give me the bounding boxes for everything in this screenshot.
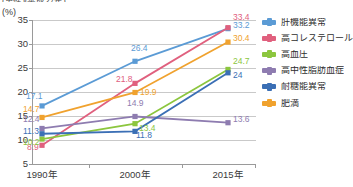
line-marker-icon <box>262 36 276 41</box>
data-point-label: 19.9 <box>140 88 157 97</box>
series-marker <box>225 39 230 44</box>
series-marker <box>39 131 44 136</box>
series-marker <box>39 143 44 148</box>
legend-item[interactable]: 高中性脂肪血症 <box>262 63 353 79</box>
y-axis-tick-label: 25 <box>17 63 28 73</box>
data-point-label: 33.4 <box>233 13 250 22</box>
data-point-label: 17.1 <box>26 92 43 101</box>
data-point-label: 14.9 <box>127 99 144 108</box>
legend-item[interactable]: 高血圧 <box>262 46 353 62</box>
x-axis-tick-label: 1990年 <box>26 170 57 180</box>
y-axis-tick-label: 30 <box>17 39 28 49</box>
data-point-label: 14.7 <box>23 105 40 114</box>
x-axis-tick-label: 2000年 <box>119 170 150 180</box>
data-point-label: 12.4 <box>23 115 40 124</box>
series-marker <box>132 81 137 86</box>
data-point-label: 13.6 <box>233 115 250 124</box>
data-point-label: 11.3 <box>23 127 39 136</box>
data-point-label: 26.4 <box>131 44 148 53</box>
series-marker <box>39 126 44 131</box>
line-chart: (男性)(平成27年) (%) 5101520253035 1990年2000年… <box>0 0 353 187</box>
series-marker <box>132 114 137 119</box>
line-marker-icon <box>262 84 276 89</box>
data-point-label: 11.8 <box>136 131 152 140</box>
legend: 肝機能異常高コレステロール高血圧高中性脂肪血症耐糖能異常肥満 <box>262 14 353 111</box>
data-point-label: 33.2 <box>233 21 250 30</box>
legend-item-label: 高コレステロール <box>281 34 353 43</box>
data-point-label: 21.8 <box>116 75 133 84</box>
data-point-label: 24 <box>233 71 242 80</box>
line-marker-icon <box>262 101 276 106</box>
legend-item-label: 耐糖能異常 <box>281 82 326 91</box>
legend-item[interactable]: 耐糖能異常 <box>262 79 353 95</box>
data-point-label: 24.7 <box>233 57 250 66</box>
top-caption: (男性)(平成27年) <box>2 0 66 2</box>
data-point-label: 10.2 <box>23 138 40 147</box>
series-marker <box>132 90 137 95</box>
series-marker <box>132 59 137 64</box>
series-marker <box>225 120 230 125</box>
line-marker-icon <box>262 52 276 57</box>
legend-item-label: 肥満 <box>281 99 299 108</box>
x-axis-tick-label: 2015年 <box>212 170 243 180</box>
series-marker <box>225 70 230 75</box>
series-marker <box>225 25 230 30</box>
legend-item[interactable]: 高コレステロール <box>262 30 353 46</box>
data-point-label: 30.4 <box>233 34 250 43</box>
legend-item-label: 高中性脂肪血症 <box>281 66 344 75</box>
plot-area: 5101520253035 1990年2000年2015年 17.126.433… <box>32 20 256 165</box>
series-marker <box>39 136 44 141</box>
legend-item[interactable]: 肥満 <box>262 95 353 111</box>
line-marker-icon <box>262 68 276 73</box>
legend-item[interactable]: 肝機能異常 <box>262 14 353 30</box>
legend-item-label: 肝機能異常 <box>281 18 326 27</box>
line-marker-icon <box>262 20 276 25</box>
y-axis-tick-label: 5 <box>23 159 28 169</box>
series-marker <box>132 121 137 126</box>
y-axis-tick-label: 35 <box>17 15 28 25</box>
legend-item-label: 高血圧 <box>281 50 308 59</box>
series-marker <box>39 103 44 108</box>
series-marker <box>39 115 44 120</box>
y-axis-unit-label: (%) <box>2 7 16 17</box>
